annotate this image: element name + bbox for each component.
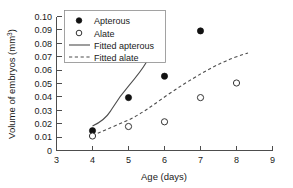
x-tick-label: 6: [162, 155, 167, 165]
x-tick-label: 7: [198, 155, 203, 165]
y-axis-title-base: Volume of embryos (mm: [6, 36, 17, 139]
y-tick-label: 0.08: [34, 39, 52, 49]
y-tick-label: 0.05: [34, 79, 52, 89]
legend-marker-open-circle-icon: [76, 30, 82, 36]
x-axis-ticks: [57, 146, 273, 151]
y-axis-title-tail: ): [6, 29, 17, 32]
chart-figure: 0 0.01 0.02 0.03 0.04 0.05 0.06 0.07 0.0…: [0, 0, 293, 188]
y-axis-tick-labels: 0 0.01 0.02 0.03 0.04 0.05 0.06 0.07 0.0…: [34, 12, 52, 156]
x-tick-label: 8: [234, 155, 239, 165]
y-tick-label: 0.01: [34, 132, 52, 142]
legend-label-alate: Alate: [94, 29, 115, 39]
legend-label-apterous: Apterous: [94, 16, 131, 26]
data-point-apterous: [197, 28, 203, 34]
x-axis-title: Age (days): [141, 171, 187, 182]
data-point-apterous: [161, 73, 167, 79]
svg-text:Volume of embryos (mm3): Volume of embryos (mm3): [6, 29, 17, 139]
data-point-alate: [197, 95, 203, 101]
data-point-apterous: [125, 95, 131, 101]
y-tick-label: 0.07: [34, 52, 52, 62]
data-point-alate: [233, 80, 239, 86]
y-tick-label: 0.06: [34, 65, 52, 75]
legend-marker-filled-circle-icon: [76, 18, 82, 24]
legend-label-fitted-alate: Fitted alate: [94, 53, 139, 63]
fitted-alate-curve: [93, 53, 249, 136]
y-axis-title: Volume of embryos (mm3): [6, 29, 17, 139]
data-point-alate: [161, 119, 167, 125]
y-tick-label: 0.04: [34, 92, 52, 102]
y-axis-ticks: [57, 17, 62, 151]
data-point-alate: [89, 133, 95, 139]
x-tick-label: 5: [126, 155, 131, 165]
y-tick-label: 0.10: [34, 12, 52, 22]
data-point-alate: [125, 123, 131, 129]
x-tick-label: 3: [54, 155, 59, 165]
x-tick-label: 4: [90, 155, 95, 165]
chart-legend: Apterous Alate Fitted apterous Fitted al…: [65, 11, 166, 63]
y-tick-label: 0.09: [34, 25, 52, 35]
y-tick-label: 0: [47, 146, 52, 156]
legend-label-fitted-apterous: Fitted apterous: [94, 41, 155, 51]
x-axis-tick-labels: 3 4 5 6 7 8 9: [54, 155, 275, 165]
y-tick-label: 0.02: [34, 119, 52, 129]
scatter-plot: 0 0.01 0.02 0.03 0.04 0.05 0.06 0.07 0.0…: [0, 0, 293, 188]
x-tick-label: 9: [270, 155, 275, 165]
y-tick-label: 0.03: [34, 106, 52, 116]
